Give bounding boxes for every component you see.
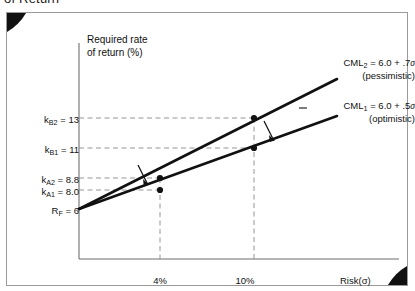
x-tick-label-10: 10% bbox=[229, 275, 261, 288]
y-tick-value-ka2: 8.8 bbox=[66, 174, 79, 185]
figure-caption: of Return bbox=[4, 0, 59, 6]
y-tick-sub-kb1: B1 bbox=[50, 147, 59, 156]
figure-caption-clip: of Return bbox=[0, 0, 414, 10]
y-tick-sub-ka1: A1 bbox=[46, 189, 55, 198]
y-tick-label-kb2: kB2 = 13 bbox=[21, 114, 79, 127]
y-tick-label-kb1: kB1 = 11 bbox=[21, 144, 79, 157]
y-tick-sub-rf: F bbox=[58, 208, 62, 217]
figure-frame: Required rate of return (%) kB2 = 13 kB1… bbox=[6, 12, 408, 286]
series-label-cml2-eq: = 6.0 + .7 bbox=[368, 57, 411, 68]
series-label-cml1-eq: = 6.0 + .5 bbox=[368, 100, 411, 111]
series-label-cml2: CML2 = 6.0 + .7σ (pessimistic) bbox=[305, 57, 415, 83]
y-axis-title-line2: of return (%) bbox=[87, 46, 148, 59]
series-label-cml1-main: CML bbox=[343, 100, 363, 111]
series-label-cml1: CML1 = 6.0 + .5σ (optimistic) bbox=[305, 100, 415, 126]
y-tick-sub-kb2: B2 bbox=[49, 117, 58, 126]
x-axis-title: Risk(σ) bbox=[340, 275, 371, 288]
series-line-cml2 bbox=[79, 79, 337, 209]
annotation-arrow-upper-right bbox=[264, 121, 274, 142]
y-tick-value-ka1: 8.0 bbox=[66, 186, 79, 197]
series-label-cml2-sigma: σ bbox=[410, 58, 415, 68]
series-label-cml1-note: (optimistic) bbox=[305, 113, 415, 126]
series-label-cml2-note: (pessimistic) bbox=[305, 70, 415, 83]
y-tick-label-rf: RF = 6 bbox=[21, 205, 79, 218]
y-tick-value-rf: 6 bbox=[74, 205, 79, 216]
y-tick-label-ka1: kA1 = 8.0 bbox=[21, 186, 79, 199]
y-tick-value-kb2: 13 bbox=[68, 114, 79, 125]
y-tick-value-kb1: 11 bbox=[69, 144, 79, 155]
series-line-cml1 bbox=[79, 116, 337, 209]
y-axis-title-line1: Required rate bbox=[87, 33, 148, 46]
y-axis-title: Required rate of return (%) bbox=[87, 33, 148, 59]
data-point-cml2-x4 bbox=[157, 175, 163, 181]
data-point-cml1-x4 bbox=[157, 187, 163, 193]
x-tick-label-4: 4% bbox=[146, 275, 174, 288]
series-label-cml2-main: CML bbox=[343, 57, 363, 68]
data-point-cml1-x10 bbox=[251, 145, 257, 151]
series-label-cml1-sigma: σ bbox=[410, 101, 415, 111]
data-point-cml2-x10 bbox=[251, 115, 257, 121]
